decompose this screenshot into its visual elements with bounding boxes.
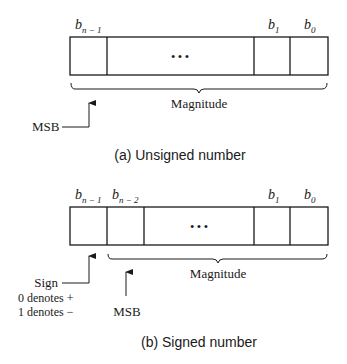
ellipsis: • • • [190, 220, 208, 232]
msb-arrow [62, 103, 89, 127]
msb-label: MSB [113, 304, 141, 319]
ellipsis: • • • [171, 50, 189, 62]
bit-label-b-n-2: bn − 2 [112, 187, 139, 205]
bit-label-b0: b0 [304, 187, 316, 205]
magnitude-label: Magnitude [171, 96, 228, 111]
magnitude-brace [108, 254, 327, 263]
sign-label: Sign [34, 275, 58, 290]
magnitude-label: Magnitude [190, 266, 247, 281]
sign-arrow [62, 256, 89, 283]
bit-label-b0: b0 [304, 17, 316, 35]
msb-label: MSB [32, 119, 60, 134]
signed-number-diagram: bn − 1 bn − 2 b1 b0 • • • Magnitude Sign… [18, 187, 328, 350]
unsigned-number-diagram: bn − 1 b1 b0 • • • Magnitude MSB (a) Uns… [32, 17, 328, 163]
bit-label-b-n-1: bn − 1 [75, 17, 102, 35]
bit-label-b1: b1 [268, 187, 280, 205]
bit-label-b-n-1: bn − 1 [75, 187, 102, 205]
sign-note-positive: 0 denotes + [18, 291, 74, 305]
caption-signed: (b) Signed number [141, 334, 257, 350]
sign-note-negative: 1 denotes − [18, 305, 74, 319]
register-box [70, 37, 328, 75]
caption-unsigned: (a) Unsigned number [114, 147, 246, 163]
magnitude-brace [71, 83, 327, 93]
bit-label-b1: b1 [268, 17, 280, 35]
